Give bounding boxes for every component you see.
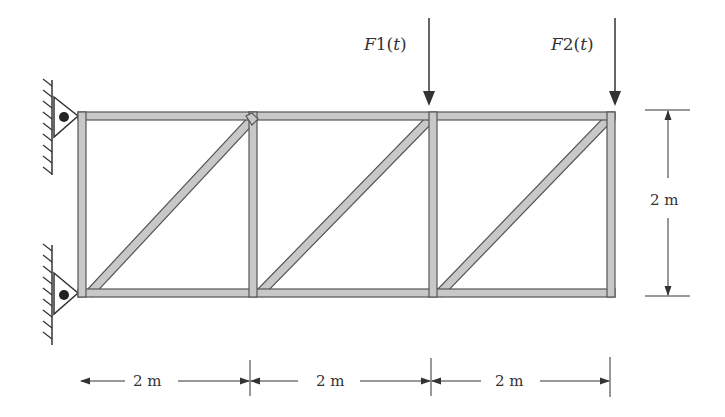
load-label-f1: F1(t) xyxy=(363,34,407,54)
load-arrow-f1 xyxy=(423,18,435,106)
diagonal-member-1 xyxy=(86,113,258,297)
bay-label-3: 2 m xyxy=(495,372,524,390)
vertical-member-2 xyxy=(249,112,257,297)
vertical-member-1 xyxy=(78,112,86,297)
pin-support-icon xyxy=(54,273,78,314)
bay-label-2: 2 m xyxy=(316,372,345,390)
top-chord xyxy=(78,112,615,120)
load-arrow-f2 xyxy=(609,18,621,106)
load-label-f2: F2(t) xyxy=(550,34,594,54)
bay-label-1: 2 m xyxy=(133,372,162,390)
vertical-member-4 xyxy=(607,112,615,297)
truss-diagram: F1(t) F2(t) 2 m 2 m 2 m 2 m xyxy=(0,0,725,417)
vertical-member-3 xyxy=(429,112,437,297)
wall-support-top xyxy=(43,79,52,175)
diagonal-member-2 xyxy=(256,113,436,297)
bottom-chord xyxy=(78,289,615,297)
diagonal-member-3 xyxy=(436,113,614,297)
height-label: 2 m xyxy=(650,191,679,209)
pin-support-icon xyxy=(54,97,78,137)
truss-members xyxy=(78,112,615,297)
wall-support-bottom xyxy=(43,244,52,345)
